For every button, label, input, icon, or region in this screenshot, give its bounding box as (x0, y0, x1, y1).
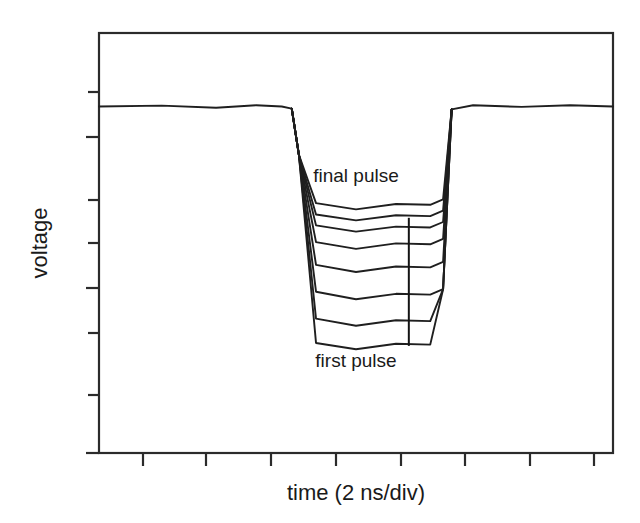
trace-1 (99, 105, 613, 349)
pulse-train-plot: final pulse first pulse time (2 ns/div) … (0, 0, 640, 523)
figure-container: final pulse first pulse time (2 ns/div) … (0, 0, 640, 523)
plot-frame (99, 33, 613, 453)
x-axis-ticks (143, 453, 594, 466)
waveform-traces (99, 105, 613, 349)
x-axis-title: time (2 ns/div) (287, 480, 425, 505)
y-axis-title: voltage (27, 208, 52, 279)
trace-8 (292, 109, 452, 210)
y-axis-ticks (86, 92, 99, 453)
annotation-final-pulse: final pulse (313, 165, 399, 186)
annotation-first-pulse: first pulse (315, 350, 396, 371)
trace-2 (292, 109, 452, 326)
